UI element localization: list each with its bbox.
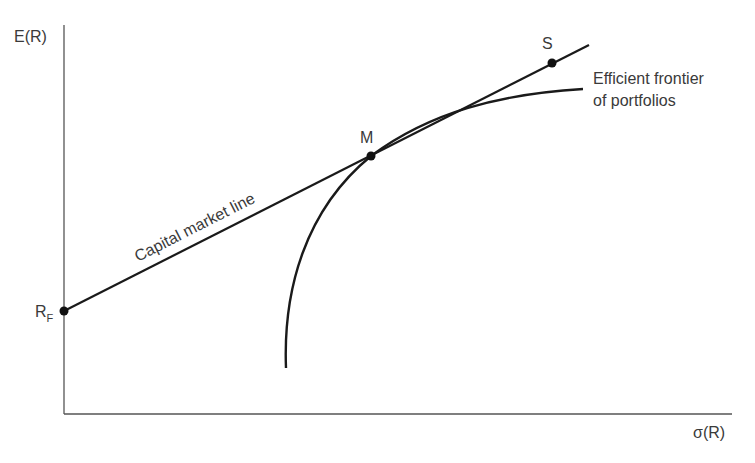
y-axis-label: E(R) [14,28,47,45]
cml-diagram: E(R) σ(R) RF M S Capital market line Eff… [0,0,755,463]
x-axis-label: σ(R) [693,424,725,441]
efficient-frontier-curve [286,89,583,368]
frontier-label-line2: of portfolios [593,92,676,109]
m-point [367,152,376,161]
s-label: S [542,35,553,52]
cml-label: Capital market line [132,189,258,264]
capital-market-line [64,45,589,311]
frontier-label-line1: Efficient frontier [593,70,705,87]
s-point [548,59,557,68]
rf-point [60,307,69,316]
m-label: M [360,129,373,146]
rf-label: RF [35,303,54,324]
